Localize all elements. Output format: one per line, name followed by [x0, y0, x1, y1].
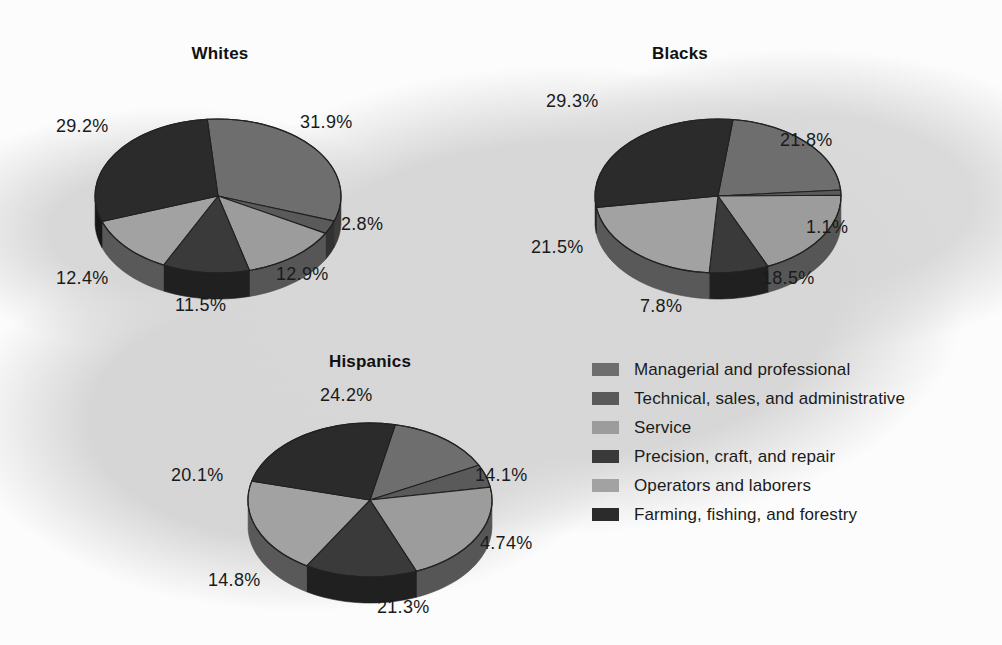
legend-item-label: Technical, sales, and administrative [634, 389, 905, 409]
pie-svg-whites [0, 0, 400, 340]
legend-item: Technical, sales, and administrative [592, 384, 905, 413]
pie-label-whites-operators: 12.4% [56, 268, 109, 289]
pie-label-hispanics-precision: 14.8% [208, 570, 261, 591]
pie-label-whites-precision: 11.5% [175, 295, 226, 316]
legend-item: Operators and laborers [592, 471, 905, 500]
pie-label-hispanics-operators: 20.1% [171, 465, 224, 486]
legend-item: Managerial and professional [592, 355, 905, 384]
pie-label-blacks-operators: 21.5% [531, 237, 584, 258]
legend-swatch-technical [592, 392, 619, 405]
legend-swatch-precision [592, 450, 619, 463]
pie-chart-whites: Whites 31.9% 2.8% 12.9% 11.5% 12.4% 29.2… [0, 0, 400, 340]
pie-label-whites-managerial: 31.9% [300, 112, 353, 133]
pie-label-whites-service: 12.9% [276, 264, 329, 285]
pie-label-hispanics-managerial: 14.1% [475, 465, 528, 486]
legend-swatch-operators [592, 479, 619, 492]
pie-label-blacks-farming: 29.3% [546, 91, 599, 112]
pie-svg-hispanics [180, 340, 580, 640]
legend-item-label: Service [634, 418, 691, 438]
legend-swatch-farming [592, 508, 619, 521]
pie-label-hispanics-technical: 4.74% [480, 533, 533, 554]
pie-chart-blacks: Blacks 21.8% 1.1% 18.5% 7.8% 21.5% 29.3% [540, 0, 960, 340]
legend-item-label: Managerial and professional [634, 360, 850, 380]
pie-label-hispanics-service: 21.3% [377, 597, 430, 618]
legend-item-label: Farming, fishing, and forestry [634, 505, 857, 525]
legend-item: Precision, craft, and repair [592, 442, 905, 471]
pie-label-whites-farming: 29.2% [56, 116, 109, 137]
legend: Managerial and professionalTechnical, sa… [592, 355, 905, 529]
pie-chart-hispanics: Hispanics 14.1% 4.74% 21.3% 14.8% 20.1% … [180, 340, 580, 640]
pie-label-hispanics-farming: 24.2% [320, 385, 373, 406]
pie-label-blacks-service: 18.5% [762, 268, 815, 289]
pie-label-blacks-managerial: 21.8% [780, 130, 833, 151]
pie-label-whites-technical: 2.8% [341, 214, 383, 235]
legend-item-label: Operators and laborers [634, 476, 811, 496]
legend-swatch-managerial [592, 363, 619, 376]
legend-swatch-service [592, 421, 619, 434]
chart-page: Whites 31.9% 2.8% 12.9% 11.5% 12.4% 29.2… [0, 0, 1002, 645]
pie-label-blacks-precision: 7.8% [640, 296, 682, 317]
legend-item-label: Precision, craft, and repair [634, 447, 835, 467]
legend-item: Service [592, 413, 905, 442]
legend-item: Farming, fishing, and forestry [592, 500, 905, 529]
pie-svg-blacks [540, 0, 960, 340]
pie-label-blacks-technical: 1.1% [806, 217, 848, 238]
